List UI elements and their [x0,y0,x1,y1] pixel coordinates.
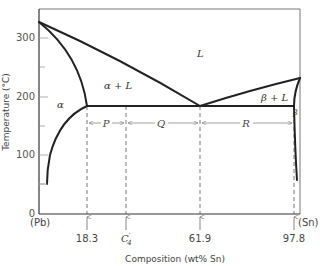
sn-label: (Sn) [298,217,319,228]
y-axis-title: Temperature (°C) [1,73,11,152]
region-alpha-plus-liquid: α + L [104,80,132,91]
pb-label: (Pb) [30,217,50,228]
region-liquid: L [196,48,204,59]
composition-97-8: 97.8 [283,233,305,244]
segment-p-label: P [102,118,110,129]
phase-diagram: 300 200 100 0 Temperature (°C) L α + L β… [0,0,320,266]
region-beta-plus-liquid: β + L [260,92,289,103]
segment-r-label: R [241,118,250,129]
composition-guides [87,106,294,214]
solidus-alpha [39,22,87,106]
region-beta: β [292,108,298,117]
y-ticks [39,38,48,184]
phase-boundaries [39,22,300,184]
composition-61-9: 61.9 [189,233,211,244]
liquidus-left [39,22,200,106]
y-tick-100: 100 [16,149,35,160]
y-tick-200: 200 [16,91,35,102]
solvus-beta [294,106,297,180]
solvus-alpha [47,106,87,184]
solidus-beta [294,78,300,106]
y-tick-300: 300 [16,32,35,43]
composition-arrows [87,217,294,230]
composition-18-3: 18.3 [76,233,98,244]
composition-c4-prime: C′4 [121,232,132,247]
region-alpha: α [57,99,64,110]
x-axis-title: Composition (wt% Sn) [125,254,225,264]
segment-q-label: Q [157,118,165,129]
